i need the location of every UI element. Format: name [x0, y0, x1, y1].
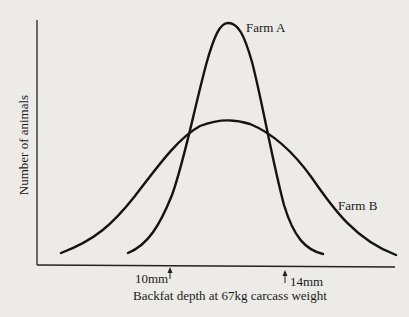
x-axis	[37, 265, 395, 267]
farm-a-label: Farm A	[246, 20, 285, 36]
y-axis-title: Number of animals	[16, 95, 32, 195]
farm-b-label: Farm B	[338, 198, 377, 214]
x-axis-title: Backfat depth at 67kg carcass weight	[133, 288, 327, 304]
chart-plot	[0, 0, 409, 317]
chart: Farm A Farm B 10mm 14mm Backfat depth at…	[0, 0, 409, 317]
tick-10mm: 10mm	[135, 271, 168, 287]
arrow-up-icon-14mm	[283, 270, 288, 283]
series-farm-a	[128, 23, 323, 254]
arrow-up-icon-10mm	[168, 267, 173, 279]
series-farm-b	[61, 120, 396, 255]
